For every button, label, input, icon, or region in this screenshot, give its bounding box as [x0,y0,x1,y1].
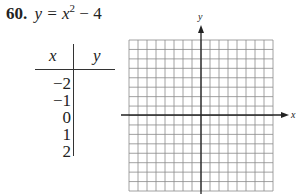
y-axis-label: y [197,11,203,22]
coordinate-grid[interactable]: x y [0,0,298,194]
x-axis-label: x [290,109,296,120]
x-axis-arrow-icon [281,112,289,118]
y-axis-arrow-icon [198,25,204,33]
